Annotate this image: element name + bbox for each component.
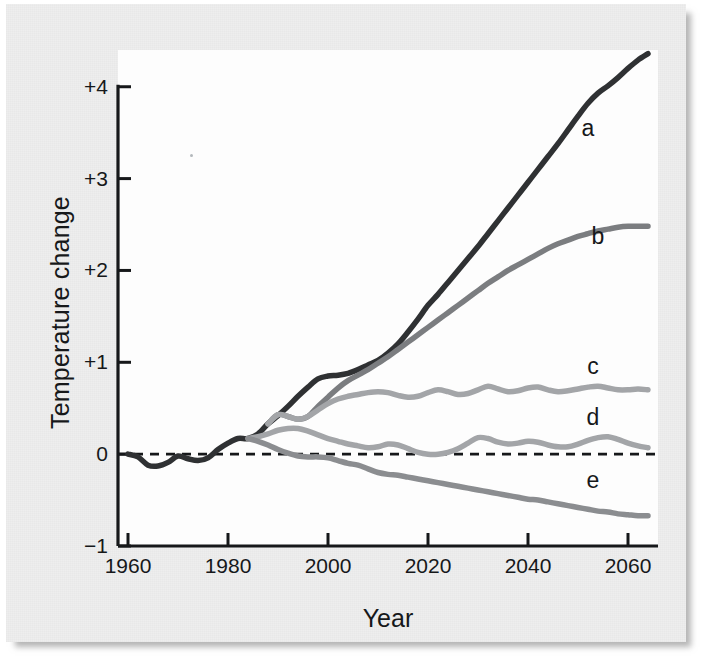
curve-label-e: e — [587, 466, 600, 493]
x-axis-title: Year — [118, 604, 658, 633]
series-group — [128, 54, 648, 516]
curve-label-a: a — [582, 115, 595, 142]
figure-root: −10+1+2+3+4 196019802000202020402060 abc… — [0, 0, 703, 656]
series-line-a — [128, 54, 648, 467]
curve-label-c: c — [587, 352, 599, 379]
y-tick-label: +4 — [40, 75, 108, 99]
x-tick-label: 2000 — [305, 554, 352, 578]
series-line-d — [248, 428, 648, 454]
x-tick-label: 1980 — [205, 554, 252, 578]
x-tick-label: 2040 — [505, 554, 552, 578]
x-tick-label: 2060 — [605, 554, 652, 578]
x-tick-label: 2020 — [405, 554, 452, 578]
curve-label-b: b — [592, 222, 605, 249]
x-tick-label: 1960 — [105, 554, 152, 578]
y-axis-title: Temperature change — [46, 113, 75, 513]
curve-label-d: d — [587, 404, 600, 431]
y-tick-label: −1 — [40, 534, 108, 558]
